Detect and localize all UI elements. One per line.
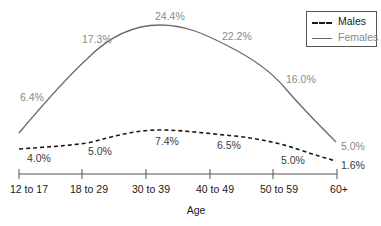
x-tick-label: 60+ (330, 183, 348, 195)
legend-label: Females (338, 31, 378, 43)
x-tick-label: 12 to 17 (10, 183, 48, 195)
males-label: 5.0% (281, 154, 305, 166)
females-label: 16.0% (286, 73, 316, 85)
males-label: 7.4% (155, 135, 179, 147)
males-label: 1.6% (341, 159, 365, 171)
females-label: 24.4% (155, 10, 185, 22)
males-label: 6.5% (217, 139, 241, 151)
legend-item-females: Females (307, 30, 376, 45)
females-label: 6.4% (20, 91, 44, 103)
solid-line-swatch-icon (312, 38, 332, 39)
dashed-line-swatch-icon (312, 22, 332, 24)
males-label: 4.0% (27, 152, 51, 164)
females-label: 17.3% (82, 33, 112, 45)
legend-label: Males (338, 15, 366, 27)
x-tick-label: 30 to 39 (132, 183, 170, 195)
males-label: 5.0% (88, 145, 112, 157)
x-axis-title: Age (187, 204, 206, 216)
x-tick-label: 50 to 59 (260, 183, 298, 195)
females-label: 5.0% (341, 140, 365, 152)
x-tick-label: 40 to 49 (196, 183, 234, 195)
legend-item-males: Males (307, 14, 376, 29)
females-label: 22.2% (222, 30, 252, 42)
x-tick-label: 18 to 29 (70, 183, 108, 195)
legend: Males Females (306, 11, 377, 47)
